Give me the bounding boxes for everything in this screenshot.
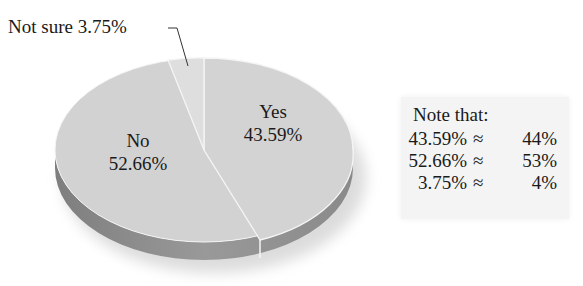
note-box: Note that: 43.59% ≈ 44% 52.66% ≈ 53% 3.7… (401, 97, 569, 219)
approx-symbol: ≈ (473, 128, 483, 150)
label-yes: Yes (228, 101, 318, 123)
value-yes: 43.59% (228, 124, 318, 146)
approx-symbol: ≈ (473, 172, 483, 194)
note-rounded-1: 44% (522, 128, 557, 150)
callout-not-sure: Not sure 3.75% (8, 16, 127, 38)
approx-symbol: ≈ (473, 150, 483, 172)
note-exact-1: 43.59% (408, 128, 467, 150)
label-no: No (98, 130, 178, 152)
note-rounded-2: 53% (522, 150, 557, 172)
note-rounded-3: 4% (532, 172, 557, 194)
note-exact-3: 3.75% (418, 172, 467, 194)
value-no: 52.66% (98, 153, 178, 175)
note-exact-2: 52.66% (408, 150, 467, 172)
note-heading: Note that: (413, 104, 488, 126)
